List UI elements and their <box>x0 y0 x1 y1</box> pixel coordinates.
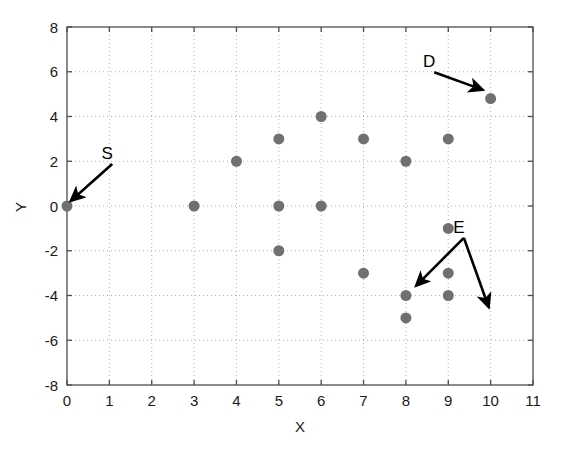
data-point-marker <box>273 245 284 256</box>
x-tick-label: 10 <box>482 392 499 409</box>
data-point-marker <box>316 111 327 122</box>
x-tick-label: 5 <box>275 392 283 409</box>
data-point-marker <box>316 201 327 212</box>
data-point-marker <box>358 133 369 144</box>
data-point-marker <box>443 268 454 279</box>
data-point-marker <box>400 156 411 167</box>
x-axis-title: X <box>295 418 305 435</box>
y-tick-label: -6 <box>45 332 58 349</box>
annotation-label-s: S <box>102 144 113 163</box>
y-tick-label: 6 <box>50 63 58 80</box>
y-tick-label: -8 <box>45 377 58 394</box>
x-tick-label: 4 <box>232 392 240 409</box>
y-tick-label: -4 <box>45 287 58 304</box>
data-point-marker <box>443 223 454 234</box>
data-point-marker <box>485 93 496 104</box>
x-tick-label: 7 <box>359 392 367 409</box>
y-tick-label: -2 <box>45 242 58 259</box>
y-tick-label: 4 <box>50 108 58 125</box>
data-point-marker <box>273 133 284 144</box>
x-tick-label: 11 <box>525 392 541 409</box>
y-tick-label: 0 <box>50 198 58 215</box>
data-point-marker <box>273 201 284 212</box>
x-tick-label: 8 <box>402 392 410 409</box>
y-tick-label: 2 <box>50 153 58 170</box>
data-point-marker <box>231 156 242 167</box>
data-point-marker <box>62 201 73 212</box>
figure-background <box>0 0 568 460</box>
x-tick-label: 6 <box>317 392 325 409</box>
x-tick-label: 9 <box>444 392 452 409</box>
data-point-marker <box>443 133 454 144</box>
data-point-marker <box>189 201 200 212</box>
x-tick-label: 2 <box>148 392 156 409</box>
data-point-marker <box>443 290 454 301</box>
annotation-label-e: E <box>453 218 464 237</box>
data-point-marker <box>358 268 369 279</box>
plot-canvas: 01234567891011 -8-6-4-202468 SDE X Y <box>0 0 568 460</box>
data-point-marker <box>400 290 411 301</box>
x-tick-label: 3 <box>190 392 198 409</box>
y-axis-title: Y <box>12 202 29 212</box>
scatter-plot-figure: 01234567891011 -8-6-4-202468 SDE X Y <box>0 0 568 460</box>
x-tick-label: 1 <box>105 392 113 409</box>
y-tick-label: 8 <box>50 19 58 36</box>
data-point-marker <box>400 312 411 323</box>
annotation-label-d: D <box>423 52 435 71</box>
x-tick-label: 0 <box>63 392 71 409</box>
